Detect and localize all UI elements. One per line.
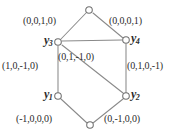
- graph-diagram-figure: y3 y4 y1 y2 (0,0,1,0) (0,0,0,1) (1,0,-1,…: [0, 0, 183, 137]
- node-y2[interactable]: [123, 93, 130, 100]
- edge-y2-to-bottom: [93, 99, 123, 123]
- edge-y3-to-y2: [62, 45, 123, 93]
- node-y3[interactable]: [55, 39, 62, 46]
- edge-y1-to-bottom: [61, 99, 87, 123]
- node-top[interactable]: [86, 7, 93, 14]
- node-y1[interactable]: [55, 93, 62, 100]
- node-y4[interactable]: [123, 37, 130, 44]
- edge-top-to-y3: [61, 13, 86, 39]
- graph-canvas: [0, 0, 183, 137]
- edge-y3-to-y4: [62, 40, 122, 41]
- edge-top-to-y4: [93, 13, 123, 38]
- node-bottom[interactable]: [87, 122, 94, 129]
